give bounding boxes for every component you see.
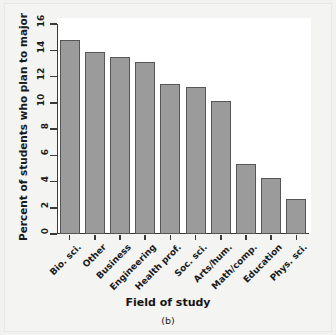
y-axis-tick-label: 10	[26, 95, 48, 105]
y-axis-tick-label: 16	[26, 16, 48, 26]
figure-panel: Percent of students who plan to major 02…	[0, 0, 336, 335]
y-axis-tick-label: 4	[26, 174, 48, 184]
x-axis-tick	[296, 235, 298, 240]
y-axis-tick	[50, 23, 57, 25]
y-axis-tick	[50, 155, 57, 157]
x-axis-tick	[170, 235, 172, 240]
y-axis-tick	[50, 128, 57, 130]
y-axis-tick-label: 6	[26, 147, 48, 157]
x-axis-tick	[144, 235, 146, 240]
y-axis-tick	[50, 50, 57, 52]
x-axis-tick	[245, 235, 247, 240]
y-axis-tick	[50, 76, 57, 78]
y-axis-tick-label: 12	[26, 69, 48, 79]
bar	[160, 84, 180, 234]
x-axis-tick	[69, 235, 71, 240]
y-axis-tick	[50, 233, 57, 235]
x-axis-tick	[94, 235, 96, 240]
bar	[236, 164, 256, 234]
x-axis-tick	[119, 235, 121, 240]
x-axis-tick	[270, 235, 272, 240]
bar	[261, 178, 281, 234]
y-axis-tick	[50, 207, 57, 209]
bar	[186, 87, 206, 234]
y-axis-tick	[50, 102, 57, 104]
y-axis-tick-label: 8	[26, 121, 48, 131]
bar	[60, 40, 80, 234]
y-axis-tick-label: 14	[26, 42, 48, 52]
bar	[211, 101, 231, 234]
x-axis-tick	[220, 235, 222, 240]
x-axis-tick	[195, 235, 197, 240]
x-axis-title: Field of study	[0, 296, 336, 309]
bar	[85, 52, 105, 234]
y-axis-tick-label: 0	[26, 226, 48, 236]
y-axis-tick-label: 2	[26, 200, 48, 210]
bar	[135, 62, 155, 234]
bar	[110, 57, 130, 234]
figure-caption: (b)	[0, 315, 336, 326]
y-axis-tick	[50, 181, 57, 183]
bar	[286, 199, 306, 234]
